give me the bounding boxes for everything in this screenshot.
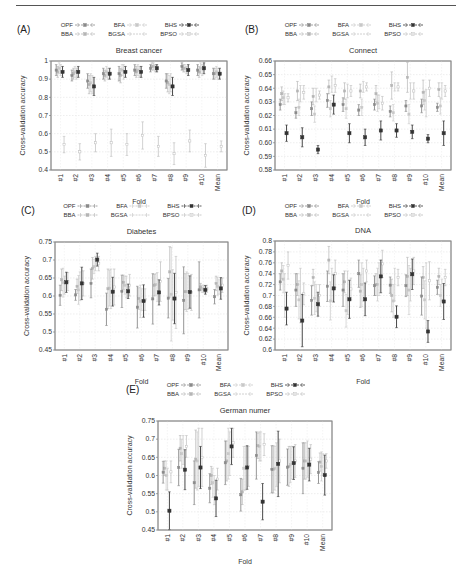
data-point (213, 296, 215, 298)
data-point (62, 282, 64, 284)
legend-label-bgsa: BGSA (108, 31, 125, 37)
data-point (178, 466, 180, 468)
data-point (124, 70, 127, 73)
x-tick-label: Mean (438, 354, 445, 371)
data-point (328, 259, 330, 261)
data-point (287, 264, 289, 266)
data-point (426, 330, 429, 333)
y-tick-label: 0.4 (39, 166, 49, 173)
chart-title: DNA (355, 226, 371, 235)
data-point (173, 153, 175, 155)
legend-label-opf: OPF (285, 22, 298, 28)
y-axis-label: Cross-validation accuracy (243, 255, 251, 336)
x-tick-label: #6 (241, 534, 248, 542)
x-tick-label: #6 (135, 174, 142, 182)
legend-label-opf: OPF (285, 203, 298, 209)
data-point (111, 290, 114, 293)
legend-label-bfa: BFA (338, 203, 349, 209)
data-point (285, 307, 288, 310)
x-tick-label: #5 (122, 354, 129, 362)
x-tick-label: Mean (438, 174, 445, 191)
data-point (379, 129, 382, 132)
data-point (318, 94, 320, 96)
data-point (405, 105, 407, 107)
x-tick-label: #5 (344, 174, 351, 182)
chart-title: Connect (349, 46, 378, 55)
legend-label-bba: BBA (63, 212, 75, 218)
chart-title: Diabetes (127, 227, 157, 236)
data-point (316, 148, 319, 151)
chart-legend: OPFBFABHSBBABGSABPSO (167, 382, 305, 397)
x-tick-label: #7 (257, 534, 264, 542)
data-point (444, 90, 446, 92)
data-point (375, 93, 377, 95)
data-point (391, 294, 393, 296)
x-tick-label: #7 (151, 174, 158, 182)
data-point (317, 471, 319, 473)
data-point (105, 308, 107, 310)
x-axis-label: Fold (238, 558, 252, 565)
data-point (59, 294, 61, 296)
y-tick-label: 0.8 (263, 237, 273, 244)
x-tick-label: #8 (169, 354, 176, 362)
data-point (139, 300, 141, 302)
chart-panel-a: (A)OPFBFABHSBBABGSABPSOBreast cancer0.40… (17, 22, 227, 205)
data-point (311, 108, 313, 110)
data-point (345, 310, 347, 312)
data-point (311, 299, 313, 301)
data-point (118, 73, 120, 75)
data-point (197, 69, 199, 71)
y-tick-label: 0.9 (39, 75, 49, 82)
data-point (188, 290, 191, 293)
x-axis-label: Fold (132, 198, 146, 205)
x-tick-label: #5 (120, 174, 127, 182)
legend-label-bba: BBA (167, 391, 179, 397)
data-point (444, 276, 446, 278)
y-tick-label: 0.45 (39, 346, 52, 353)
x-tick-label: Mean (319, 534, 326, 551)
data-point (184, 291, 186, 293)
data-point (391, 84, 393, 86)
x-tick-label: #8 (391, 354, 398, 362)
y-tick-label: 0.7 (263, 292, 273, 299)
data-point (424, 99, 426, 101)
data-point (271, 468, 273, 470)
data-point (227, 453, 229, 455)
data-point (202, 67, 205, 70)
data-point (366, 270, 368, 272)
y-tick-label: 0.66 (259, 314, 272, 321)
y-tick-label: 0.45 (142, 526, 155, 533)
data-point (406, 76, 408, 78)
data-point (302, 467, 304, 469)
data-point (421, 295, 423, 297)
legend-label-bpso: BPSO (384, 212, 401, 218)
data-point (408, 289, 410, 291)
chart-legend: OPFBFABHSBBABGSABPSO (63, 203, 201, 218)
data-point (63, 143, 65, 145)
x-tick-label: Mean (215, 354, 222, 371)
data-point (142, 134, 144, 136)
data-point (438, 275, 440, 277)
x-tick-label: #4 (107, 354, 114, 362)
data-point (165, 80, 167, 82)
x-tick-label: #2 (296, 174, 303, 182)
x-tick-label: #9 (406, 354, 413, 362)
data-point (277, 462, 280, 465)
y-tick-label: 0.55 (39, 310, 52, 317)
y-tick-label: 1 (44, 57, 48, 64)
data-point (108, 72, 111, 75)
data-point (162, 471, 164, 473)
data-point (105, 71, 107, 73)
data-point (138, 297, 140, 299)
data-point (88, 84, 90, 86)
x-tick-label: #9 (184, 354, 191, 362)
data-point (74, 294, 76, 296)
data-point (318, 294, 320, 296)
data-point (389, 284, 391, 286)
data-point (152, 298, 154, 300)
data-point (110, 142, 112, 144)
data-point (168, 509, 171, 512)
data-point (332, 103, 335, 106)
x-tick-label: #10 (422, 174, 429, 186)
y-tick-label: 0.7 (43, 256, 53, 263)
